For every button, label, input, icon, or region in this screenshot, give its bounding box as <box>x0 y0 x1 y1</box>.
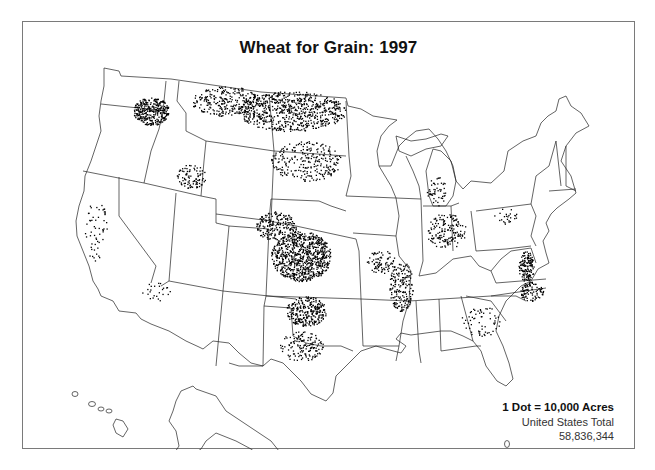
map-legend: 1 Dot = 10,000 Acres United States Total… <box>502 400 614 443</box>
map-frame: Wheat for Grain: 1997 <box>22 21 635 449</box>
state-outlines <box>72 68 589 450</box>
alaska-outline <box>141 386 286 450</box>
legend-scale: 1 Dot = 10,000 Acres <box>502 400 614 415</box>
legend-total-label: United States Total <box>502 415 614 429</box>
us-map <box>23 22 636 450</box>
wheat-dots <box>85 86 544 361</box>
legend-total-value: 58,836,344 <box>502 429 614 443</box>
